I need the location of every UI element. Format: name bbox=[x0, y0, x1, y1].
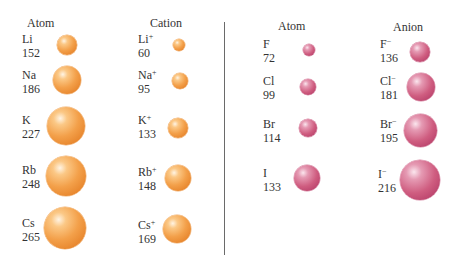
radius-value: 248 bbox=[22, 177, 40, 191]
element-symbol: I bbox=[263, 166, 281, 180]
atom-label-br: Br 114 bbox=[263, 117, 281, 145]
ion-symbol: K+ bbox=[138, 113, 156, 127]
element-symbol: Na bbox=[22, 68, 40, 82]
radius-value: 227 bbox=[22, 127, 40, 141]
atom-label-f: F 72 bbox=[263, 37, 275, 65]
ion-symbol: Br− bbox=[380, 117, 398, 131]
ion-symbol: Na+ bbox=[138, 68, 157, 82]
sphere-f-atom bbox=[303, 44, 315, 56]
sphere-cs-cation bbox=[163, 215, 191, 243]
ion-label-rb: Rb+ 148 bbox=[138, 165, 157, 193]
sphere-cl-anion bbox=[407, 73, 435, 101]
sphere-li-cation bbox=[173, 39, 185, 51]
sphere-i-atom bbox=[294, 165, 320, 191]
ion-label-na: Na+ 95 bbox=[138, 68, 157, 96]
radius-value: 133 bbox=[263, 180, 281, 194]
radius-value: 148 bbox=[138, 179, 157, 193]
radius-value: 216 bbox=[378, 181, 396, 195]
sphere-br-anion bbox=[404, 114, 437, 147]
atom-label-cl: Cl 99 bbox=[263, 74, 275, 102]
atom-label-rb: Rb 248 bbox=[22, 163, 40, 191]
ion-label-i: I− 216 bbox=[378, 167, 396, 195]
radius-value: 114 bbox=[263, 131, 281, 145]
radius-value: 265 bbox=[22, 230, 40, 244]
ion-symbol: Cl− bbox=[380, 74, 398, 88]
ion-label-k: K+ 133 bbox=[138, 113, 156, 141]
sphere-k-cation bbox=[168, 118, 188, 138]
atom-column-header: Atom bbox=[27, 16, 54, 31]
ion-label-li: Li+ 60 bbox=[138, 32, 153, 60]
atom-column-header: Atom bbox=[278, 19, 305, 34]
radius-value: 181 bbox=[380, 88, 398, 102]
element-symbol: Cs bbox=[22, 216, 40, 230]
sphere-li-atom bbox=[57, 35, 77, 55]
atom-label-na: Na 186 bbox=[22, 68, 40, 96]
sphere-cs-atom bbox=[44, 207, 86, 249]
sphere-k-atom bbox=[47, 107, 85, 145]
radius-value: 72 bbox=[263, 51, 275, 65]
sphere-rb-atom bbox=[46, 156, 86, 196]
element-symbol: Br bbox=[263, 117, 281, 131]
element-symbol: Li bbox=[22, 32, 40, 46]
ion-symbol: F− bbox=[380, 37, 398, 51]
ion-label-f: F− 136 bbox=[380, 37, 398, 65]
radius-value: 169 bbox=[138, 232, 156, 246]
ion-label-br: Br− 195 bbox=[380, 117, 398, 145]
sphere-na-cation bbox=[172, 73, 188, 89]
radius-value: 195 bbox=[380, 131, 398, 145]
radius-value: 186 bbox=[22, 82, 40, 96]
atom-label-k: K 227 bbox=[22, 113, 40, 141]
anion-column-header: Anion bbox=[393, 20, 423, 35]
sphere-f-anion bbox=[410, 42, 430, 62]
radius-value: 152 bbox=[22, 46, 40, 60]
cation-column-header: Cation bbox=[150, 16, 182, 31]
ion-symbol: I− bbox=[378, 167, 396, 181]
atom-label-li: Li 152 bbox=[22, 32, 40, 60]
element-symbol: Cl bbox=[263, 74, 275, 88]
sphere-br-atom bbox=[299, 119, 317, 137]
sphere-cl-atom bbox=[300, 79, 316, 95]
atom-label-cs: Cs 265 bbox=[22, 216, 40, 244]
radius-value: 136 bbox=[380, 51, 398, 65]
ion-symbol: Li+ bbox=[138, 32, 153, 46]
element-symbol: F bbox=[263, 37, 275, 51]
atom-label-i: I 133 bbox=[263, 166, 281, 194]
sphere-na-atom bbox=[53, 66, 81, 94]
ion-label-cl: Cl− 181 bbox=[380, 74, 398, 102]
panel-divider bbox=[224, 22, 225, 255]
ion-symbol: Cs+ bbox=[138, 218, 156, 232]
ion-symbol: Rb+ bbox=[138, 165, 157, 179]
radius-value: 95 bbox=[138, 82, 157, 96]
radius-value: 60 bbox=[138, 46, 153, 60]
element-symbol: Rb bbox=[22, 163, 40, 177]
ion-label-cs: Cs+ 169 bbox=[138, 218, 156, 246]
sphere-i-anion bbox=[400, 160, 440, 200]
sphere-rb-cation bbox=[165, 165, 191, 191]
radius-value: 133 bbox=[138, 127, 156, 141]
radius-value: 99 bbox=[263, 88, 275, 102]
element-symbol: K bbox=[22, 113, 40, 127]
